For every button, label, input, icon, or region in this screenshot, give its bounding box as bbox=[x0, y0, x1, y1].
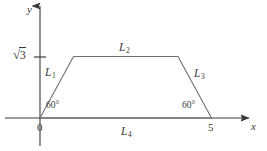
segment-label-L3-sub: 3 bbox=[201, 72, 205, 81]
segment-label-L3-base: L bbox=[194, 67, 200, 79]
segment-label-L4: L4 bbox=[121, 126, 131, 138]
segment-label-L2-sub: 2 bbox=[126, 46, 130, 55]
segment-label-L2: L2 bbox=[119, 42, 129, 54]
segment-label-L4-base: L bbox=[121, 125, 127, 137]
segment-label-L1-base: L bbox=[45, 66, 51, 78]
x-tick-label-five: 5 bbox=[208, 122, 214, 133]
segment-label-L3: L3 bbox=[194, 68, 204, 80]
angle-label-left: 60° bbox=[46, 101, 59, 111]
radicand-value: 3 bbox=[19, 47, 26, 62]
segment-label-L1: L1 bbox=[45, 67, 55, 79]
segment-label-L1-sub: 1 bbox=[52, 71, 56, 80]
trapezoid-figure: y x √3 0 5 60° 60° L1 L2 L3 L4 bbox=[0, 0, 267, 151]
x-tick-label-origin: 0 bbox=[37, 122, 43, 133]
x-axis-label: x bbox=[251, 121, 256, 132]
angle-label-right: 60° bbox=[182, 101, 195, 111]
y-tick-label-sqrt3: √3 bbox=[13, 48, 26, 61]
y-axis-label: y bbox=[27, 4, 32, 15]
segment-label-L2-base: L bbox=[119, 41, 125, 53]
segment-label-L4-sub: 4 bbox=[128, 130, 132, 139]
